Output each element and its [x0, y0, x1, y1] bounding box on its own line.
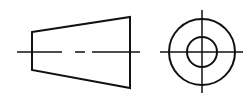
side-view [160, 10, 243, 93]
front-view [17, 17, 140, 88]
technical-drawing [0, 0, 250, 98]
